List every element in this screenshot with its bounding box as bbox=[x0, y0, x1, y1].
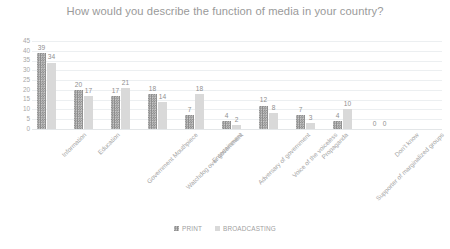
legend-item[interactable]: PRINT bbox=[174, 225, 202, 232]
bar-broadcast[interactable] bbox=[269, 113, 278, 129]
bar-print[interactable] bbox=[74, 90, 83, 129]
legend-swatch-icon bbox=[174, 226, 179, 231]
chart-legend: PRINTBROADCASTING bbox=[0, 225, 450, 232]
bar-broadcast[interactable] bbox=[158, 102, 167, 129]
bar-group: 3934 bbox=[37, 41, 58, 129]
bar-broadcast[interactable] bbox=[232, 125, 241, 129]
bar-group: 2017 bbox=[74, 41, 95, 129]
bar-value-label: 10 bbox=[341, 101, 355, 108]
y-axis-tick-label: 45 bbox=[23, 38, 30, 44]
bar-print[interactable] bbox=[37, 53, 46, 129]
bar-broadcast[interactable] bbox=[306, 123, 315, 129]
bar-group: 718 bbox=[185, 41, 206, 129]
bar-value-label: 2 bbox=[230, 117, 244, 124]
y-axis-tick-label: 20 bbox=[23, 87, 30, 93]
legend-label: BROADCASTING bbox=[223, 225, 276, 232]
y-axis-tick-label: 10 bbox=[23, 106, 30, 112]
bar-value-label: 39 bbox=[35, 45, 49, 52]
bar-value-label: 12 bbox=[257, 97, 271, 104]
y-axis-tick-label: 40 bbox=[23, 48, 30, 54]
x-axis-label: Adversary of government bbox=[257, 131, 312, 186]
bar-group: 73 bbox=[296, 41, 317, 129]
chart-container: How would you describe the function of m… bbox=[0, 0, 450, 249]
bar-broadcast[interactable] bbox=[47, 63, 56, 129]
bar-broadcast[interactable] bbox=[343, 109, 352, 129]
bar-value-label: 14 bbox=[156, 94, 170, 101]
legend-swatch-icon bbox=[215, 226, 220, 231]
bar-value-label: 17 bbox=[82, 88, 96, 95]
legend-item[interactable]: BROADCASTING bbox=[215, 225, 276, 232]
chart-title: How would you describe the function of m… bbox=[48, 4, 402, 19]
bar-value-label: 21 bbox=[119, 80, 133, 87]
bar-value-label: 34 bbox=[45, 54, 59, 61]
y-axis-tick-label: 0 bbox=[26, 126, 30, 132]
bar-print[interactable] bbox=[185, 115, 194, 129]
y-axis-tick-label: 25 bbox=[23, 77, 30, 83]
bar-group: 410 bbox=[333, 41, 354, 129]
bars-layer: 3934201717211814718421287341000 bbox=[32, 41, 442, 129]
x-axis-label: Information bbox=[60, 131, 87, 158]
bar-value-label: 7 bbox=[294, 107, 308, 114]
bar-value-label: 3 bbox=[304, 115, 318, 122]
axis-baseline bbox=[32, 129, 442, 130]
y-axis: 454035302520151050 bbox=[14, 41, 30, 129]
y-axis-tick-label: 35 bbox=[23, 57, 30, 63]
bar-value-label: 18 bbox=[193, 86, 207, 93]
bar-group: 42 bbox=[222, 41, 243, 129]
bar-broadcast[interactable] bbox=[84, 96, 93, 129]
x-axis-label: Entertainment bbox=[210, 131, 243, 164]
bar-group: 00 bbox=[370, 41, 391, 129]
plot-area: 454035302520151050 393420171721181471842… bbox=[0, 41, 450, 133]
bar-group: 1721 bbox=[111, 41, 132, 129]
bar-group: 128 bbox=[259, 41, 280, 129]
x-axis-label: Government Mouthpiece bbox=[145, 131, 199, 185]
x-axis-label: Education bbox=[96, 131, 121, 156]
bar-group: 1814 bbox=[148, 41, 169, 129]
y-axis-tick-label: 30 bbox=[23, 67, 30, 73]
y-axis-tick-label: 5 bbox=[26, 116, 30, 122]
bar-print[interactable] bbox=[111, 96, 120, 129]
x-axis-labels: InformationEducationGovernment Mouthpiec… bbox=[32, 131, 450, 193]
bar-value-label: 18 bbox=[146, 86, 160, 93]
bar-broadcast[interactable] bbox=[195, 94, 204, 129]
y-axis-tick-label: 15 bbox=[23, 96, 30, 102]
bar-value-label: 8 bbox=[267, 105, 281, 112]
legend-label: PRINT bbox=[182, 225, 202, 232]
bar-broadcast[interactable] bbox=[121, 88, 130, 129]
bar-print[interactable] bbox=[333, 121, 342, 129]
bar-value-label: 0 bbox=[378, 121, 392, 128]
